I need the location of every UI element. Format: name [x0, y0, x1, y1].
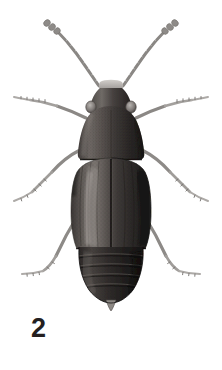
figure-plate: 2: [0, 0, 222, 370]
figure-number-label: 2: [31, 313, 46, 343]
